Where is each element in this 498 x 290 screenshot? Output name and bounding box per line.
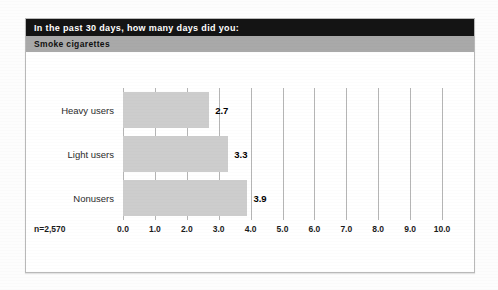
x-tick-label: 2.0 [181, 224, 193, 234]
figure-subtitle-band: Smoke cigarettes [26, 36, 474, 52]
x-tick-label: 7.0 [340, 224, 352, 234]
bar-value-label: 3.9 [253, 176, 266, 220]
figure-title-band: In the past 30 days, how many days did y… [26, 19, 474, 36]
chart-row: Light users3.3 [26, 132, 474, 176]
x-tick-label: 10.0 [434, 224, 451, 234]
chart-x-axis: n=2,570 0.01.02.03.04.05.06.07.08.09.010… [26, 222, 474, 240]
bar-value-label: 2.7 [215, 88, 228, 132]
x-tick-label: 3.0 [213, 224, 225, 234]
x-tick-label: 4.0 [245, 224, 257, 234]
x-tick-label: 1.0 [149, 224, 161, 234]
figure-title: In the past 30 days, how many days did y… [26, 23, 239, 33]
x-tick-label: 6.0 [308, 224, 320, 234]
bar-value-label: 3.3 [234, 132, 247, 176]
chart-bar-rows: Heavy users2.7Light users3.3Nonusers3.9 [26, 88, 474, 220]
x-tick-label: 5.0 [277, 224, 289, 234]
sample-size-label: n=2,570 [34, 224, 65, 234]
page-background: In the past 30 days, how many days did y… [0, 0, 498, 290]
category-label: Heavy users [26, 88, 114, 132]
x-tick-label: 0.0 [117, 224, 129, 234]
x-tick-label: 9.0 [404, 224, 416, 234]
chart-row: Nonusers3.9 [26, 176, 474, 220]
figure-panel: In the past 30 days, how many days did y… [25, 18, 475, 273]
x-tick-label: 8.0 [372, 224, 384, 234]
bar [123, 92, 209, 128]
bar [123, 136, 228, 172]
category-label: Nonusers [26, 176, 114, 220]
chart-row: Heavy users2.7 [26, 88, 474, 132]
bar [123, 180, 247, 216]
chart-plot-area: Heavy users2.7Light users3.3Nonusers3.9 … [26, 52, 474, 274]
figure-subtitle: Smoke cigarettes [26, 39, 110, 49]
category-label: Light users [26, 132, 114, 176]
